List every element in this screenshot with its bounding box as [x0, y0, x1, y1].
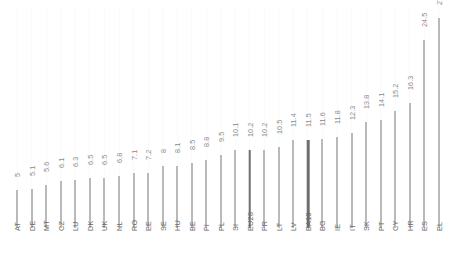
bar[interactable] — [234, 150, 236, 228]
bar[interactable] — [118, 176, 120, 228]
bar-group[interactable]: 7.1 — [126, 0, 141, 228]
bar[interactable] — [205, 160, 207, 228]
x-axis-tick: DE — [25, 228, 40, 278]
bar-group[interactable]: 7.2 — [141, 0, 156, 228]
x-axis-tick-label: PL — [217, 222, 226, 231]
bar-group[interactable]: 5.6 — [39, 0, 54, 228]
bar-value-label: 27.3 — [435, 0, 444, 5]
bar[interactable] — [176, 166, 178, 228]
x-axis-tick-label: PT — [377, 221, 386, 231]
bar-group[interactable]: 5 — [10, 0, 25, 228]
bar-group[interactable]: 6.5 — [83, 0, 98, 228]
bar-value-label: 10.1 — [232, 123, 241, 137]
bar-group[interactable]: 11.5 — [301, 0, 316, 228]
x-axis-tick-label: NL — [115, 221, 124, 231]
x-axis-tick-label: DK — [86, 220, 95, 231]
bar-group[interactable]: 27.3 — [431, 0, 446, 228]
x-axis-tick-label: FI — [203, 224, 212, 231]
bar[interactable] — [336, 137, 338, 228]
x-axis-tick: FR — [257, 228, 272, 278]
bar-group[interactable]: 5.1 — [25, 0, 40, 228]
x-axis-tick: NL — [112, 228, 127, 278]
bar-group[interactable]: 16.3 — [402, 0, 417, 228]
bar[interactable] — [292, 140, 294, 228]
x-axis-tick: SK — [359, 228, 374, 278]
bar[interactable] — [220, 155, 222, 228]
x-axis-tick: BE — [184, 228, 199, 278]
bar-value-label: 11.8 — [333, 110, 342, 124]
x-axis-tick-label: UK — [101, 220, 110, 231]
bar-group[interactable]: 10.1 — [228, 0, 243, 228]
bar-group[interactable]: 13.8 — [359, 0, 374, 228]
x-axis-tick: MT — [39, 228, 54, 278]
bar-group[interactable]: 6.1 — [54, 0, 69, 228]
bar-value-label: 8.8 — [203, 137, 212, 147]
bar-group[interactable]: 8.1 — [170, 0, 185, 228]
x-axis-tick: SE — [155, 228, 170, 278]
bar[interactable] — [394, 111, 396, 228]
x-axis-tick-label: LT — [275, 223, 284, 231]
x-axis-tick-label: CZ — [57, 221, 66, 231]
x-axis-tick: LU — [68, 228, 83, 278]
bar[interactable] — [191, 163, 193, 228]
bar[interactable] — [263, 150, 265, 228]
bar-group[interactable]: 12.3 — [344, 0, 359, 228]
bar-group[interactable]: 11.8 — [330, 0, 345, 228]
bar-group[interactable]: 9.5 — [213, 0, 228, 228]
bar-value-label: 11.4 — [290, 113, 299, 127]
x-axis-category-labels: ATDEMTCZLUDKUKNLROEESEHUBEFIPLSIEU28FRLT… — [0, 228, 452, 278]
bar-value-label: 5 — [14, 172, 23, 176]
bar-group[interactable]: 6.8 — [112, 0, 127, 228]
bar[interactable] — [423, 40, 425, 228]
bar-value-label: 10.2 — [261, 122, 270, 136]
bar-group[interactable]: 11.6 — [315, 0, 330, 228]
x-axis-tick: FI — [199, 228, 214, 278]
x-axis-tick: DK — [83, 228, 98, 278]
bar[interactable] — [351, 133, 353, 228]
x-axis-tick-label: FR — [261, 221, 270, 231]
bar-value-label: 8.1 — [174, 142, 183, 152]
x-axis-tick-label: ES — [421, 221, 430, 231]
bar-group[interactable]: 11.4 — [286, 0, 301, 228]
x-axis-tick-label: IT — [348, 224, 357, 231]
bar-value-label: 6.5 — [101, 155, 110, 165]
bar-group[interactable]: 8 — [155, 0, 170, 228]
bar-value-label: 10.2 — [246, 122, 255, 136]
bar-group[interactable]: 10.5 — [272, 0, 287, 228]
bar-group[interactable]: 15.2 — [388, 0, 403, 228]
bar[interactable] — [438, 18, 440, 228]
bar-group[interactable]: 6.5 — [97, 0, 112, 228]
bar-value-label: 11.6 — [319, 112, 328, 126]
plot-area: 55.15.66.16.36.56.56.87.17.288.18.58.89.… — [0, 0, 452, 228]
bar[interactable] — [365, 122, 367, 228]
bar-value-label: 5.6 — [43, 162, 52, 172]
bar-value-label: 13.8 — [362, 94, 371, 108]
x-axis-tick-label: EA18 — [304, 212, 313, 231]
bar[interactable] — [321, 139, 323, 228]
x-axis-tick-label: SI — [232, 224, 241, 231]
bar-chart: 55.15.66.16.36.56.56.87.17.288.18.58.89.… — [0, 0, 452, 278]
x-axis-tick-label: BG — [319, 220, 328, 231]
bar[interactable] — [147, 173, 149, 228]
bar-group[interactable]: 10.2 — [243, 0, 258, 228]
bar-group[interactable]: 24.5 — [417, 0, 432, 228]
bar-group[interactable]: 14.1 — [373, 0, 388, 228]
bar[interactable] — [409, 103, 411, 228]
x-axis-tick-label: AT — [14, 222, 23, 231]
bar[interactable] — [380, 120, 382, 228]
x-axis-tick-label: LV — [290, 222, 299, 231]
bar-group[interactable]: 10.2 — [257, 0, 272, 228]
bar-group[interactable]: 8.8 — [199, 0, 214, 228]
bar[interactable] — [278, 147, 280, 228]
bar-value-label: 7.1 — [130, 150, 139, 160]
x-axis-tick-label: IE — [333, 224, 342, 231]
x-axis-tick: LV — [286, 228, 301, 278]
x-axis-tick-label: DE — [28, 220, 37, 231]
bar[interactable] — [162, 166, 164, 228]
x-axis-tick: RO — [126, 228, 141, 278]
bar-group[interactable]: 6.3 — [68, 0, 83, 228]
x-axis-tick-label: BE — [188, 221, 197, 231]
bar-value-label: 7.2 — [144, 149, 153, 159]
x-axis-tick: CY — [388, 228, 403, 278]
bar-group[interactable]: 8.5 — [184, 0, 199, 228]
